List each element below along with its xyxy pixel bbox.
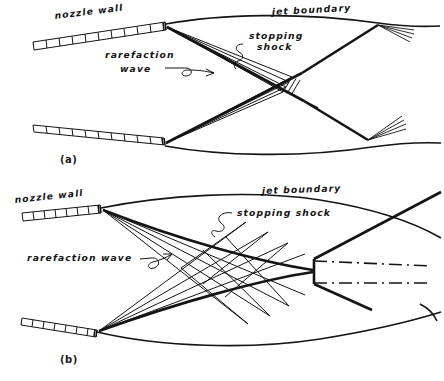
panel-b: nozzle wall jet boundary stopping shock … [14, 182, 441, 365]
label-rarefaction-a-line1: rarefaction [105, 49, 175, 60]
slip-lines-b [314, 261, 432, 283]
label-stopping-shock-a-line1: stopping [249, 30, 303, 41]
lower-jet-boundary-b-tip [420, 304, 437, 321]
reflected-fan-lower-a [368, 116, 406, 140]
stopping-shock-leader-b [212, 213, 232, 237]
lower-nozzle-wall-b [21, 318, 97, 337]
label-nozzle-wall-a: nozzle wall [54, 2, 124, 21]
label-rarefaction-b: rarefaction wave [27, 252, 132, 263]
panel-label-b: (b) [60, 354, 78, 365]
label-jet-boundary-a: jet boundary [270, 2, 352, 17]
panel-a: nozzle wall jet boundary stopping shock … [33, 2, 441, 165]
panel-label-a: (a) [60, 154, 77, 165]
rarefaction-fan-lower-b [99, 222, 305, 331]
reflected-fan-upper-a [378, 25, 414, 42]
lower-nozzle-wall-a [33, 125, 165, 145]
upper-nozzle-wall-b [22, 205, 101, 221]
figure-root: nozzle wall jet boundary stopping shock … [0, 0, 444, 381]
upper-nozzle-wall-a [33, 22, 166, 50]
label-stopping-shock-b: stopping shock [237, 207, 331, 218]
rarefaction-fan-upper-b [103, 210, 305, 324]
upper-jet-boundary-a [166, 16, 440, 27]
label-stopping-shock-a-line2: shock [257, 41, 292, 52]
label-nozzle-wall-b: nozzle wall [14, 187, 84, 205]
jet-flow-schematic-figure: nozzle wall jet boundary stopping shock … [0, 0, 444, 381]
lower-jet-boundary-a [165, 143, 441, 155]
label-jet-boundary-b: jet boundary [260, 182, 342, 196]
rarefaction-leader-a [165, 68, 214, 76]
lower-jet-boundary-b [97, 312, 441, 346]
reflected-shocks-b [314, 192, 441, 310]
label-rarefaction-a-line2: wave [120, 63, 151, 74]
rarefaction-leader-b [140, 254, 172, 268]
